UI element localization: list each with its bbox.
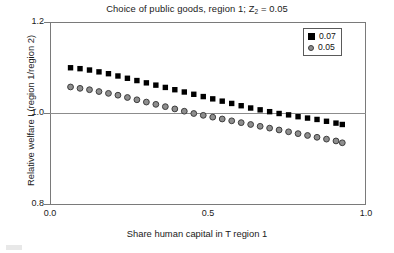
scan-artifact bbox=[6, 245, 22, 250]
legend-label-0.05: 0.05 bbox=[318, 42, 335, 53]
chart-title: Choice of public goods, region 1; Z2 = 0… bbox=[0, 3, 394, 15]
chart-title-tail: = 0.05 bbox=[258, 3, 288, 14]
xtick-label-1.0: 1.0 bbox=[346, 208, 386, 218]
xtick-label-0.5: 0.5 bbox=[188, 208, 228, 218]
chart-legend: 0.07 0.05 bbox=[303, 28, 342, 56]
xtick-label-0.0: 0.0 bbox=[30, 208, 70, 218]
circle-marker-icon bbox=[308, 45, 314, 51]
y-axis-label: Relative welfare I (region 1/region 2) bbox=[25, 1, 36, 221]
chart-figure: Choice of public goods, region 1; Z2 = 0… bbox=[0, 0, 394, 253]
chart-title-main: Choice of public goods, region 1; Z bbox=[106, 3, 254, 14]
legend-label-0.07: 0.07 bbox=[319, 31, 336, 42]
ytick-mark-1.2 bbox=[44, 22, 50, 23]
ytick-mark-1.0 bbox=[44, 113, 50, 114]
legend-item-0.05: 0.05 bbox=[308, 42, 336, 53]
legend-item-0.07: 0.07 bbox=[308, 31, 336, 42]
square-marker-icon bbox=[308, 33, 315, 40]
ytick-mark-0.8 bbox=[44, 204, 50, 205]
x-axis-label: Share human capital in T region 1 bbox=[0, 228, 394, 239]
